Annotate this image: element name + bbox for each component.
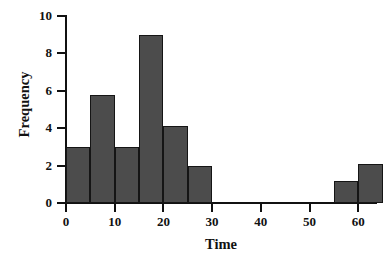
x-axis-tick-label: 10 — [100, 215, 130, 228]
x-axis-tick — [260, 204, 262, 212]
x-axis-tick-label: 20 — [148, 215, 178, 228]
histogram-bar — [66, 147, 90, 203]
y-axis-tick — [57, 90, 65, 92]
x-axis-tick-label: 30 — [197, 215, 227, 228]
histogram-bar — [163, 126, 187, 203]
histogram-bar — [188, 166, 212, 203]
x-axis-tick-label: 50 — [295, 215, 325, 228]
x-axis-tick — [211, 204, 213, 212]
y-axis-tick — [57, 15, 65, 17]
plot-area: 0246810 0102030405060 Frequency Time — [0, 0, 389, 263]
x-axis-tick — [65, 204, 67, 212]
y-axis-tick-label: 10 — [26, 9, 52, 22]
x-axis-tick-label: 40 — [246, 215, 276, 228]
histogram-figure: 0246810 0102030405060 Frequency Time — [0, 0, 389, 263]
x-axis-tick — [114, 204, 116, 212]
x-axis-tick — [309, 204, 311, 212]
y-axis-tick-label: 0 — [26, 196, 52, 209]
histogram-bar — [358, 164, 382, 203]
x-axis-tick-label: 0 — [51, 215, 81, 228]
x-axis-title: Time — [65, 236, 377, 253]
y-axis-tick — [57, 165, 65, 167]
x-axis-tick — [162, 204, 164, 212]
x-axis-tick-label: 60 — [343, 215, 373, 228]
histogram-bar — [334, 181, 358, 203]
histogram-bar — [115, 147, 139, 203]
y-axis-title: Frequency — [16, 35, 33, 175]
histogram-bar — [90, 95, 114, 203]
histogram-bar — [139, 35, 163, 203]
y-axis-tick — [57, 202, 65, 204]
y-axis-tick — [57, 52, 65, 54]
y-axis-tick — [57, 127, 65, 129]
x-axis-tick — [357, 204, 359, 212]
